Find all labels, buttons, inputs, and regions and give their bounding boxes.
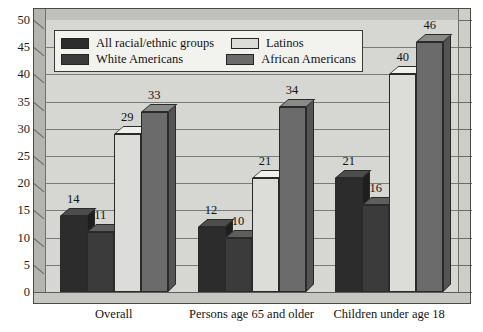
bar-front-face	[87, 232, 114, 292]
bar-front-face	[252, 178, 279, 292]
axis-wall-tick	[459, 129, 472, 130]
plot-floor	[33, 292, 471, 304]
bar-front-face	[225, 238, 252, 292]
y-axis-tick-label: 15	[4, 204, 30, 216]
axis-wall-tick	[459, 47, 472, 48]
bar-value-label: 29	[108, 111, 147, 123]
legend-swatch-icon	[231, 38, 259, 49]
bar-value-label: 16	[356, 182, 395, 194]
legend-swatch-icon	[61, 38, 89, 49]
legend-label: Latinos	[266, 37, 304, 50]
y-axis-tick-label: 10	[4, 232, 30, 244]
legend-item-3: African Americans	[226, 53, 356, 66]
axis-wall-tick	[459, 183, 472, 184]
axis-wall-tick	[34, 102, 45, 111]
y-axis-tick-label: 40	[4, 68, 30, 80]
bar-value-label: 21	[246, 155, 285, 167]
x-axis-category-label: Children under age 18	[320, 307, 458, 322]
x-axis-category-label: Overall	[45, 307, 183, 322]
bar-front-face	[362, 205, 389, 292]
bar-front-face	[60, 216, 87, 292]
legend-swatch-icon	[61, 54, 89, 65]
y-axis-tick-label: 5	[4, 259, 30, 271]
y-axis-tick-label: 20	[4, 177, 30, 189]
bar	[279, 107, 306, 292]
bar-value-label: 14	[54, 193, 93, 205]
bar	[198, 227, 225, 292]
bar-value-label: 46	[410, 19, 449, 31]
bar	[60, 216, 87, 292]
plot-top-wall	[45, 8, 458, 20]
bar-value-label: 40	[383, 51, 422, 63]
y-axis-tick-label: 30	[4, 123, 30, 135]
axis-wall-tick	[459, 156, 472, 157]
axis-wall-tick	[34, 75, 45, 84]
y-axis-tick-label: 45	[4, 41, 30, 53]
axis-wall-tick	[459, 238, 472, 239]
bar-side-face	[306, 99, 314, 292]
right-axis-wall	[458, 8, 471, 304]
legend-row: All racial/ethnic groups Latinos	[61, 35, 356, 51]
bar-chart: 50454035302520151050 All racial/ethnic g…	[0, 0, 483, 332]
bar	[416, 42, 443, 292]
y-axis-tick-label: 25	[4, 150, 30, 162]
bar-side-face	[168, 104, 176, 292]
legend-label: White Americans	[96, 53, 183, 66]
bar	[141, 112, 168, 292]
axis-wall-tick	[34, 47, 45, 56]
axis-wall-tick	[459, 102, 472, 103]
bar-value-label: 11	[81, 209, 120, 221]
legend: All racial/ethnic groups Latinos White A…	[54, 30, 363, 72]
axis-wall-tick	[459, 265, 472, 266]
axis-wall-tick	[34, 211, 45, 220]
bar-front-face	[279, 107, 306, 292]
y-axis-tick-label: 35	[4, 96, 30, 108]
legend-label: African Americans	[261, 53, 356, 66]
axis-wall-tick	[34, 265, 45, 274]
axis-wall-tick	[34, 156, 45, 165]
axis-wall-tick	[34, 183, 45, 192]
bar-value-label: 10	[219, 215, 258, 227]
axis-wall-tick	[34, 129, 45, 138]
legend-swatch-icon	[226, 54, 254, 65]
bar-side-face	[443, 34, 451, 292]
axis-wall-tick	[459, 74, 472, 75]
bar-value-label: 33	[135, 89, 174, 101]
axis-wall-tick	[34, 20, 45, 29]
bar-front-face	[416, 42, 443, 292]
axis-wall-tick	[34, 238, 45, 247]
bar-value-label: 34	[273, 84, 312, 96]
x-axis-category-label: Persons age 65 and older	[183, 307, 321, 322]
y-axis: 50454035302520151050	[0, 0, 30, 332]
bar	[225, 238, 252, 292]
bar-front-face	[198, 227, 225, 292]
y-axis-tick-label: 0	[4, 286, 30, 298]
bar-value-label: 21	[329, 155, 368, 167]
legend-item-2: Latinos	[231, 37, 304, 50]
bar	[252, 178, 279, 292]
axis-wall-tick	[459, 20, 472, 21]
axis-wall-tick	[459, 210, 472, 211]
legend-label: All racial/ethnic groups	[96, 37, 214, 50]
legend-row: White Americans African Americans	[61, 51, 356, 67]
y-axis-tick-label: 50	[4, 14, 30, 26]
bar-front-face	[335, 178, 362, 292]
legend-item-1: White Americans	[61, 53, 226, 66]
bar	[362, 205, 389, 292]
bar	[335, 178, 362, 292]
bar-front-face	[141, 112, 168, 292]
legend-item-0: All racial/ethnic groups	[61, 37, 231, 50]
bar	[87, 232, 114, 292]
